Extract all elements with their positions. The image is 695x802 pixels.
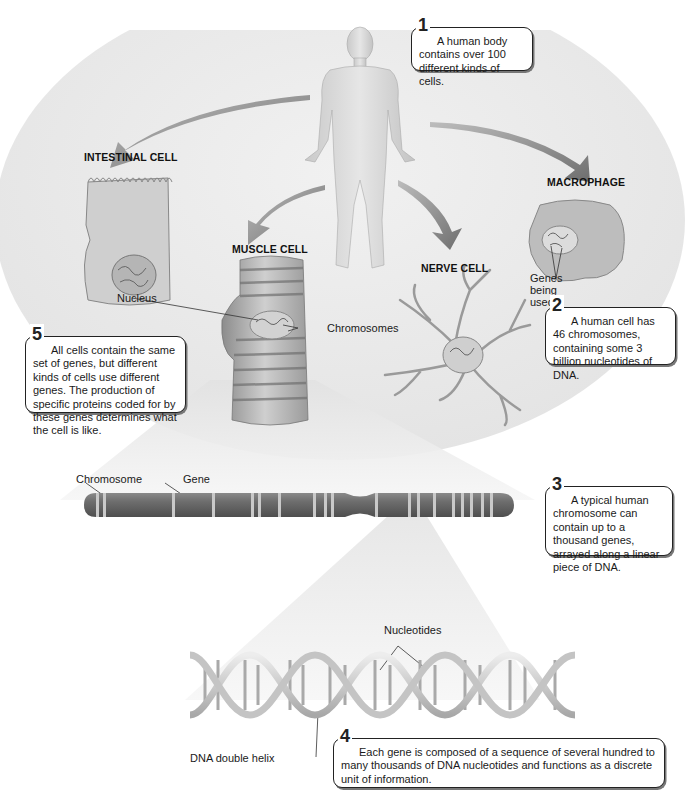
intestinal-cell bbox=[84, 178, 172, 305]
callout-text: A human body contains over 100 different… bbox=[419, 35, 525, 89]
callout-4: 4 Each gene is composed of a sequence of… bbox=[333, 738, 665, 788]
callout-number: 1 bbox=[416, 15, 430, 35]
label-nucleotides: Nucleotides bbox=[384, 624, 441, 636]
heading-muscle-cell: MUSCLE CELL bbox=[232, 243, 308, 255]
callout-number: 5 bbox=[30, 324, 44, 344]
label-nucleus: Nucleus bbox=[117, 292, 157, 304]
macrophage-cell bbox=[529, 200, 624, 281]
heading-intestinal-cell: INTESTINAL CELL bbox=[84, 151, 177, 163]
label-chromosome: Chromosome bbox=[76, 473, 142, 485]
callout-text: A typical human chromosome can contain u… bbox=[553, 494, 665, 574]
callout-1: 1 A human body contains over 100 differe… bbox=[411, 27, 533, 71]
callout-number: 3 bbox=[550, 474, 564, 494]
heading-nerve-cell: NERVE CELL bbox=[421, 262, 488, 274]
callout-text: All cells contain the same set of genes,… bbox=[33, 344, 178, 438]
callout-number: 2 bbox=[550, 295, 564, 315]
label-gene: Gene bbox=[183, 473, 210, 485]
callout-5: 5 All cells contain the same set of gene… bbox=[25, 336, 186, 413]
label-dna-double-helix: DNA double helix bbox=[190, 752, 274, 764]
callout-text: A human cell has 46 chromosomes, contain… bbox=[553, 315, 668, 382]
callout-2: 2 A human cell has 46 chromosomes, conta… bbox=[545, 307, 676, 365]
chromosome bbox=[84, 493, 514, 517]
heading-macrophage: MACROPHAGE bbox=[547, 176, 625, 188]
callout-number: 4 bbox=[338, 726, 352, 746]
callout-text: Each gene is composed of a sequence of s… bbox=[341, 746, 657, 786]
nerve-cell-nucleus bbox=[443, 337, 483, 373]
label-chromosomes: Chromosomes bbox=[327, 322, 399, 334]
callout-3: 3 A typical human chromosome can contain… bbox=[545, 486, 673, 556]
